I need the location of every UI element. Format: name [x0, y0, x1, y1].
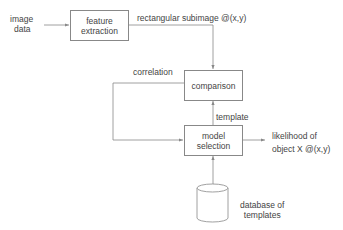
- template-label: template: [216, 112, 249, 122]
- feature-extraction-line1: feature: [81, 16, 118, 26]
- database-line2: templates: [240, 210, 284, 220]
- feature-extraction-line2: extraction: [81, 26, 118, 36]
- feature-extraction-box: feature extraction: [70, 10, 129, 41]
- database-line1: database of: [240, 200, 284, 210]
- output-label: likelihood of object X @(x,y): [272, 131, 330, 154]
- image-data-label: image data: [10, 14, 33, 34]
- output-line2: object X @(x,y): [272, 144, 330, 154]
- correlation-label: correlation: [133, 67, 173, 77]
- database-cylinder-icon: [197, 184, 228, 222]
- image-data-line1: image: [10, 14, 33, 24]
- diagram-connectors: [0, 0, 343, 230]
- comparison-label: comparison: [192, 81, 236, 91]
- subimage-label: rectangular subimage @(x,y): [137, 13, 246, 23]
- model-selection-line1: model: [197, 131, 231, 141]
- model-selection-box: model selection: [184, 125, 243, 156]
- model-selection-line2: selection: [197, 141, 231, 151]
- comparison-box: comparison: [184, 70, 243, 101]
- image-data-line2: data: [10, 24, 33, 34]
- database-label: database of templates: [240, 200, 284, 220]
- output-line1: likelihood of: [272, 131, 330, 141]
